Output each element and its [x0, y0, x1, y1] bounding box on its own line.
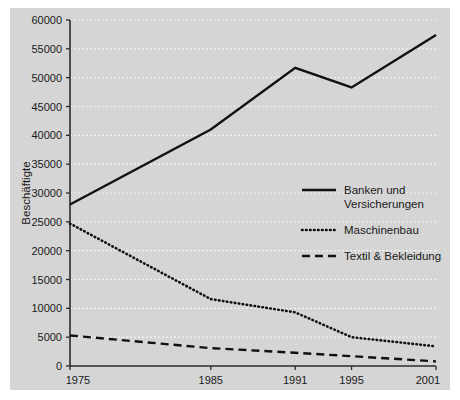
- y-axis-tick-labels: 0500010000150002000025000300003500040000…: [31, 14, 62, 372]
- x-tick-label: 2001: [416, 374, 440, 386]
- y-tick-label: 10000: [31, 302, 62, 314]
- x-tick-label: 1975: [66, 374, 90, 386]
- x-tick-label: 1985: [199, 374, 223, 386]
- gridlines: [70, 20, 436, 337]
- y-tick-label: 55000: [31, 43, 62, 55]
- y-tick-label: 35000: [31, 158, 62, 170]
- y-tick-label: 5000: [38, 331, 62, 343]
- y-tick-label: 60000: [31, 14, 62, 26]
- employment-line-chart: 0500010000150002000025000300003500040000…: [10, 8, 450, 390]
- x-tick-label: 1995: [339, 374, 363, 386]
- y-tick-label: 20000: [31, 245, 62, 257]
- legend-label: Banken und: [344, 184, 405, 196]
- y-tick-label: 15000: [31, 274, 62, 286]
- y-tick-label: 50000: [31, 72, 62, 84]
- y-tick-label: 0: [56, 360, 62, 372]
- legend-label-continued: Versicherungen: [344, 198, 424, 210]
- y-tick-label: 45000: [31, 101, 62, 113]
- y-tick-label: 25000: [31, 216, 62, 228]
- x-axis-tick-labels: 19751985199119952001: [66, 374, 440, 386]
- y-tick-label: 30000: [31, 187, 62, 199]
- y-tick-label: 40000: [31, 129, 62, 141]
- series-line-dotted: [70, 224, 436, 347]
- legend-label: Maschinenbau: [344, 224, 419, 236]
- legend-label: Textil & Bekleidung: [344, 250, 441, 262]
- y-axis-title: Beschäftigte: [20, 161, 32, 224]
- series-line-solid: [70, 35, 436, 205]
- x-tick-label: 1991: [283, 374, 307, 386]
- chart-figure: 0500010000150002000025000300003500040000…: [10, 8, 450, 390]
